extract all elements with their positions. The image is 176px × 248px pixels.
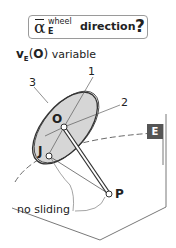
axis-3-label: 3 — [29, 76, 36, 89]
frame-E-badge: E — [147, 124, 163, 139]
axis-1-label: 1 — [88, 65, 95, 78]
point-J-label: J — [38, 144, 42, 158]
point-P-label: P — [115, 187, 124, 201]
no-sliding-label: no sliding — [17, 203, 70, 216]
axis-2-label: 2 — [121, 96, 128, 109]
point-O-label: O — [52, 112, 62, 126]
